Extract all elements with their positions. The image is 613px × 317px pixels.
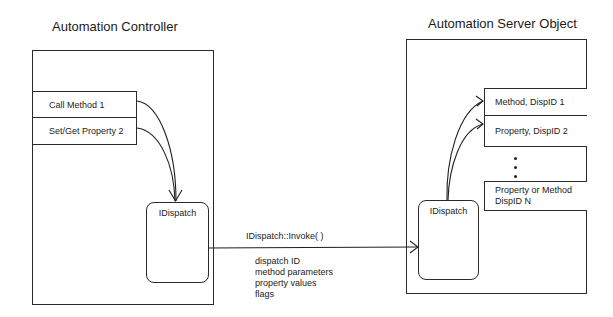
arrow-call-method: [137, 101, 176, 201]
arrow-property-dispid-2: [448, 124, 483, 200]
arrow-method-dispid-1: [447, 101, 483, 200]
connector-arrows: [0, 0, 613, 317]
arrow-invoke: [208, 247, 418, 248]
